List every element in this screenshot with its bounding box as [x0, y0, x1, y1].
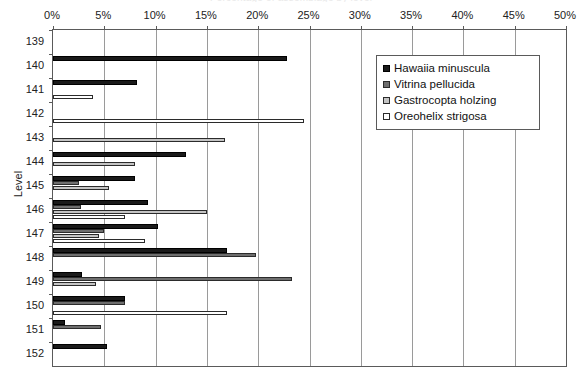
- x-tick-label: 20%: [246, 9, 268, 22]
- y-tick-mark: [49, 174, 53, 175]
- bar: [53, 205, 81, 209]
- x-tick-mark: [515, 26, 516, 30]
- y-tick-mark: [49, 222, 53, 223]
- y-tick-label: 139: [26, 35, 44, 47]
- bar: [53, 248, 227, 252]
- legend-swatch-icon: [383, 113, 390, 120]
- bar: [53, 215, 125, 219]
- bar: [53, 95, 93, 99]
- y-tick-mark: [49, 342, 53, 343]
- y-tick-mark: [49, 54, 53, 55]
- x-tick-label: 35%: [400, 9, 422, 22]
- x-tick-mark: [53, 26, 54, 30]
- x-tick-label: 25%: [297, 9, 319, 22]
- legend-label: Hawaiia minuscula: [394, 61, 490, 75]
- legend-swatch-icon: [383, 97, 390, 104]
- gridline: [207, 30, 208, 366]
- bar: [53, 320, 65, 324]
- legend-item: Vitrina pellucida: [383, 76, 533, 92]
- legend-swatch-icon: [383, 65, 390, 72]
- y-tick-label: 143: [26, 131, 44, 143]
- bar: [53, 239, 145, 243]
- bar: [53, 162, 135, 166]
- legend-label: Vitrina pellucida: [394, 77, 475, 91]
- x-tick-label: 50%: [554, 9, 576, 22]
- chart-legend: Hawaiia minusculaVitrina pellucidaGastro…: [376, 55, 540, 130]
- x-tick-mark: [463, 26, 464, 30]
- y-tick-mark: [49, 126, 53, 127]
- x-tick-mark: [310, 26, 311, 30]
- x-tick-mark: [207, 26, 208, 30]
- y-tick-label: 149: [26, 275, 44, 287]
- y-axis-tick-labels: 1391401411421431441451461471481491501511…: [0, 0, 50, 385]
- y-tick-mark: [49, 270, 53, 271]
- y-tick-mark: [49, 246, 53, 247]
- bar: [53, 181, 79, 185]
- bar: [53, 311, 227, 315]
- y-tick-label: 140: [26, 59, 44, 71]
- y-tick-label: 147: [26, 227, 44, 239]
- bar: [53, 80, 137, 84]
- y-tick-label: 141: [26, 83, 44, 95]
- bar: [53, 253, 256, 257]
- bar: [53, 224, 158, 228]
- bar: [53, 325, 101, 329]
- bar: [53, 200, 148, 204]
- y-tick-mark: [49, 198, 53, 199]
- y-tick-label: 145: [26, 179, 44, 191]
- x-tick-mark: [156, 26, 157, 30]
- bar: [53, 56, 287, 60]
- bar: [53, 152, 186, 156]
- x-tick-mark: [566, 26, 567, 30]
- y-tick-label: 150: [26, 299, 44, 311]
- bar: [53, 272, 82, 276]
- bar: [53, 282, 96, 286]
- bar: [53, 344, 107, 348]
- x-tick-label: 10%: [144, 9, 166, 22]
- bar: [53, 277, 292, 281]
- bar: [53, 138, 225, 142]
- bar: [53, 186, 109, 190]
- gridline: [361, 30, 362, 366]
- x-tick-mark: [361, 26, 362, 30]
- y-tick-label: 144: [26, 155, 44, 167]
- bar: [53, 210, 207, 214]
- legend-item: Gastrocopta holzing: [383, 92, 533, 108]
- bar: [53, 176, 135, 180]
- y-tick-label: 152: [26, 347, 44, 359]
- chart-title: Percentage of assemblage by level: [0, 0, 582, 2]
- x-tick-mark: [412, 26, 413, 30]
- x-tick-label: 45%: [503, 9, 525, 22]
- x-tick-mark: [104, 26, 105, 30]
- legend-item: Oreohelix strigosa: [383, 108, 533, 124]
- x-tick-label: 30%: [349, 9, 371, 22]
- y-tick-label: 148: [26, 251, 44, 263]
- bar: [53, 301, 125, 305]
- legend-item: Hawaiia minuscula: [383, 60, 533, 76]
- y-tick-mark: [49, 318, 53, 319]
- gridline: [156, 30, 157, 366]
- y-tick-mark: [49, 78, 53, 79]
- y-tick-label: 151: [26, 323, 44, 335]
- x-tick-label: 15%: [195, 9, 217, 22]
- y-tick-label: 146: [26, 203, 44, 215]
- bar: [53, 119, 304, 123]
- legend-label: Gastrocopta holzing: [394, 93, 496, 107]
- bar-chart: Percentage of assemblage by level 0%5%10…: [0, 0, 582, 385]
- x-tick-label: 40%: [451, 9, 473, 22]
- y-tick-label: 142: [26, 107, 44, 119]
- y-tick-mark: [49, 30, 53, 31]
- y-tick-mark: [49, 294, 53, 295]
- bar: [53, 234, 99, 238]
- gridline: [310, 30, 311, 366]
- gridline: [258, 30, 259, 366]
- y-tick-mark: [49, 150, 53, 151]
- y-tick-mark: [49, 102, 53, 103]
- bar: [53, 296, 125, 300]
- legend-swatch-icon: [383, 81, 390, 88]
- x-tick-mark: [258, 26, 259, 30]
- legend-label: Oreohelix strigosa: [394, 109, 487, 123]
- x-tick-label: 5%: [95, 9, 111, 22]
- bar: [53, 229, 104, 233]
- x-axis-tick-labels: 0%5%10%15%20%25%30%35%40%45%50%: [0, 9, 582, 25]
